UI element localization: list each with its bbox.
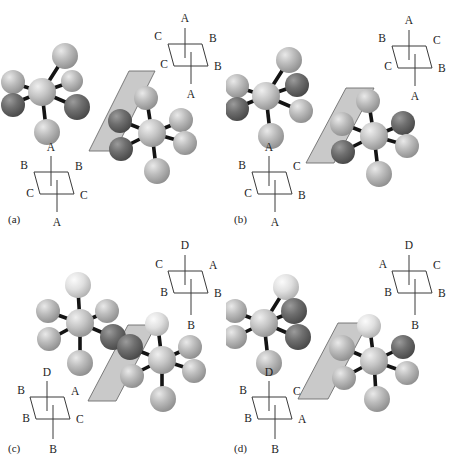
- saw-c-bl-lower-left: B: [22, 412, 30, 424]
- saw-c-bl-upper-left: B: [17, 384, 25, 396]
- saw-d-bl-upper-left: B: [239, 384, 247, 396]
- saw-d-bl-bottom: B: [271, 443, 279, 455]
- saw-b-bl-lower-left: C: [244, 187, 252, 199]
- saw-a-tr-lower-left: C: [160, 58, 168, 70]
- saw-d-tr-upper-right: C: [433, 259, 441, 271]
- saw-a-bl-upper-right: B: [75, 160, 83, 172]
- atom-bottom-right-mol-d: [364, 386, 390, 412]
- saw-a-tr-upper-left: C: [154, 30, 162, 42]
- atom-upper-right-mol-d: [281, 298, 307, 324]
- atom-upper-left-right-mol-c: [117, 334, 143, 360]
- atom-center-left-mol-b: [252, 82, 280, 110]
- saw-c-bl-upper-right: A: [71, 385, 80, 397]
- atom-upper-left-mol-c: [36, 299, 60, 323]
- atom-lower-left-right-mol-c: [120, 364, 144, 388]
- saw-c-bl-bottom: B: [49, 443, 57, 455]
- atom-lower-right-right-mol-d: [395, 361, 419, 385]
- saw-b-tr-upper-left: B: [378, 32, 386, 44]
- atom-lower-right-mol-b: [289, 99, 313, 123]
- saw-c-bl-lower-right: C: [76, 413, 84, 425]
- atom-lower-right-right-mol-b: [395, 134, 419, 158]
- atom-bottom-right-mol-a: [144, 158, 170, 184]
- atom-upper-right-right-mol-a: [169, 108, 193, 132]
- atom-bottom-right-mol-b: [366, 161, 392, 187]
- sawhorse-top-right-d: D A C B B B: [372, 237, 448, 341]
- saw-c-bl-top: D: [43, 366, 51, 378]
- panel-label-d: (d): [234, 442, 247, 454]
- saw-d-tr-bottom: B: [411, 319, 419, 331]
- atom-center-left-mol-c: [66, 309, 94, 337]
- saw-d-bl-lower-right: A: [298, 413, 307, 425]
- saw-d-bl-lower-left: B: [244, 412, 252, 424]
- saw-b-tr-top: A: [405, 14, 414, 26]
- atom-top-left-mol-b: [276, 47, 302, 73]
- saw-a-tr-lower-right: B: [214, 60, 222, 72]
- atom-lower-right-mol-a: [64, 94, 90, 120]
- saw-a-bl-lower-right: C: [80, 189, 88, 201]
- atom-upper-left-mol-b: [226, 74, 249, 98]
- atom-lower-left-right-mol-b: [331, 140, 355, 164]
- atom-lower-left-mol-a: [1, 93, 25, 117]
- atom-top-left-mol-c: [65, 272, 91, 298]
- saw-c-tr-upper-right: A: [209, 259, 218, 271]
- atom-lower-right-right-mol-c: [182, 359, 206, 383]
- saw-b-tr-upper-right: C: [433, 34, 441, 46]
- atom-lower-left-right-mol-a: [109, 137, 133, 161]
- saw-a-bl-top: A: [47, 141, 56, 153]
- atom-upper-right-mol-c: [95, 299, 119, 323]
- atom-lower-right-mol-d: [285, 324, 311, 350]
- saw-c-tr-bottom: B: [187, 319, 195, 331]
- saw-b-bl-bottom: A: [271, 216, 280, 228]
- atom-upper-right-right-mol-b: [391, 111, 415, 135]
- panel-d: D A C B B B D B C B A B: [226, 229, 452, 458]
- atoms-left-b: [226, 47, 313, 149]
- atom-center-left-mol-d: [250, 309, 278, 337]
- atom-lower-right-right-mol-a: [173, 131, 197, 155]
- saw-d-tr-upper-left: A: [379, 258, 388, 270]
- saw-d-tr-lower-right: B: [438, 287, 446, 299]
- saw-b-bl-top: A: [265, 141, 274, 153]
- atom-top-left-mol-d: [273, 274, 299, 300]
- atom-upper-left-right-mol-b: [330, 112, 354, 136]
- panel-a: A C B C B A A B B C C A: [0, 0, 226, 229]
- atom-upper-right-mol-a: [61, 70, 83, 92]
- sawhorse-bottom-left-c: D B A B C B: [14, 365, 88, 458]
- saw-b-tr-lower-left: C: [384, 60, 392, 72]
- panel-label-a: (a): [8, 213, 20, 225]
- atom-center-left-mol-a: [28, 78, 56, 106]
- saw-b-bl-lower-right: B: [298, 189, 306, 201]
- sawhorse-top-right-b: A B C C B A: [372, 8, 448, 108]
- saw-c-tr-upper-left: C: [155, 258, 163, 270]
- saw-b-bl-upper-left: B: [238, 159, 246, 171]
- saw-a-bl-upper-left: B: [20, 159, 28, 171]
- saw-b-tr-lower-right: B: [438, 62, 446, 74]
- saw-d-tr-top: D: [405, 239, 413, 251]
- atom-upper-left-right-mol-d: [329, 335, 355, 361]
- saw-c-tr-top: D: [181, 239, 189, 251]
- atom-center-right-mol-b: [360, 122, 388, 150]
- atom-top-left-mol-a: [52, 43, 78, 69]
- saw-a-bl-bottom: A: [53, 216, 62, 228]
- atoms-left-d: [226, 274, 311, 376]
- saw-d-bl-upper-right: C: [293, 385, 301, 397]
- saw-a-tr-upper-right: B: [209, 32, 217, 44]
- saw-b-tr-bottom: A: [411, 90, 420, 102]
- atom-upper-right-mol-b: [285, 73, 309, 97]
- atom-upper-left-right-mol-a: [108, 109, 132, 133]
- saw-a-tr-top: A: [181, 12, 190, 24]
- saw-a-tr-bottom: A: [187, 88, 196, 100]
- saw-a-bl-lower-left: C: [26, 187, 34, 199]
- atoms-left-a: [1, 43, 90, 145]
- saw-c-tr-lower-left: B: [160, 286, 168, 298]
- atom-center-right-mol-d: [360, 347, 388, 375]
- atom-center-right-mol-a: [138, 119, 166, 147]
- saw-d-tr-lower-left: B: [384, 286, 392, 298]
- sawhorse-top-right-c: D C A B B B: [152, 237, 226, 341]
- atom-upper-left-mol-a: [1, 70, 25, 94]
- saw-c-tr-lower-right: B: [214, 287, 222, 299]
- panel-label-b: (b): [234, 213, 247, 225]
- atom-lower-left-mol-b: [226, 97, 249, 121]
- sawhorse-bottom-left-a: A B B C C A: [14, 140, 88, 232]
- atom-lower-left-right-mol-d: [332, 366, 356, 390]
- atom-lower-left-mol-d: [226, 325, 247, 349]
